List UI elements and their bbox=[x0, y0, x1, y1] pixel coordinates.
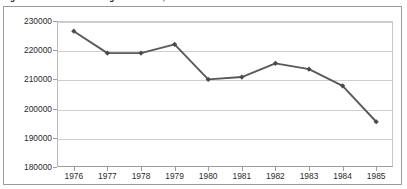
line-chart: 1800001900002000002100002200002300001976… bbox=[4, 7, 403, 186]
y-axis-tick-label: 210000 bbox=[0, 74, 52, 84]
series-line bbox=[74, 31, 376, 122]
x-axis-tick-mark bbox=[376, 167, 377, 171]
x-axis-tick-mark bbox=[107, 167, 108, 171]
x-axis-tick-mark bbox=[74, 167, 75, 171]
y-axis-tick-mark bbox=[53, 109, 57, 110]
x-axis-tick-label: 1979 bbox=[165, 171, 184, 181]
y-axis-tick-mark bbox=[53, 21, 57, 22]
x-axis-tick-label: 1977 bbox=[98, 171, 117, 181]
x-axis-tick-label: 1983 bbox=[300, 171, 319, 181]
y-axis-tick-label: 220000 bbox=[0, 45, 52, 55]
x-axis-tick-mark bbox=[275, 167, 276, 171]
y-axis-tick-label: 200000 bbox=[0, 104, 52, 114]
data-point-marker bbox=[138, 51, 143, 56]
y-axis-tick-mark bbox=[53, 50, 57, 51]
x-axis-tick-label: 1984 bbox=[333, 171, 352, 181]
x-axis-tick-mark bbox=[208, 167, 209, 171]
y-axis-tick-mark bbox=[53, 138, 57, 139]
x-axis-tick-mark bbox=[309, 167, 310, 171]
data-point-marker bbox=[239, 74, 244, 79]
x-axis-tick-label: 1981 bbox=[232, 171, 251, 181]
y-axis-tick-label: 230000 bbox=[0, 16, 52, 26]
figure-frame: 1800001900002000002100002200002300001976… bbox=[3, 6, 402, 185]
x-axis-tick-label: 1982 bbox=[266, 171, 285, 181]
figure-caption: Figure 4-1. Total Black College Enrollme… bbox=[3, 0, 403, 4]
x-axis-tick-mark bbox=[141, 167, 142, 171]
x-axis-tick-label: 1976 bbox=[64, 171, 83, 181]
y-axis-tick-label: 190000 bbox=[0, 133, 52, 143]
x-axis-tick-label: 1985 bbox=[367, 171, 386, 181]
data-series-line bbox=[57, 21, 393, 167]
x-axis-tick-mark bbox=[175, 167, 176, 171]
x-axis-tick-label: 1978 bbox=[132, 171, 151, 181]
figure-page: Figure 4-1. Total Black College Enrollme… bbox=[0, 0, 407, 189]
x-axis-tick-mark bbox=[343, 167, 344, 171]
data-point-marker bbox=[273, 61, 278, 66]
y-axis-tick-label: 180000 bbox=[0, 162, 52, 172]
x-axis-tick-label: 1980 bbox=[199, 171, 218, 181]
x-axis-tick-mark bbox=[242, 167, 243, 171]
y-axis-tick-mark bbox=[53, 167, 57, 168]
y-axis-tick-mark bbox=[53, 79, 57, 80]
